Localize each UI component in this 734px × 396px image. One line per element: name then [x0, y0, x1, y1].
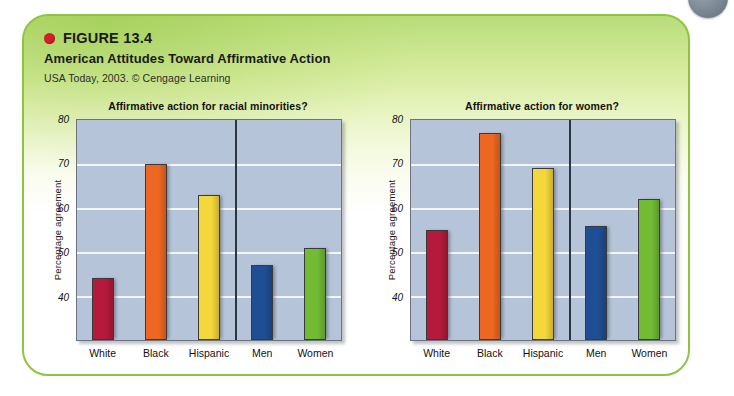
y-tick-label: 60 [392, 202, 403, 213]
bar-men [251, 265, 273, 340]
group-divider [235, 120, 237, 340]
bar-white [92, 278, 114, 340]
x-tick-label: Men [252, 347, 272, 359]
chart-body: Percentage agreement8070605040WhiteBlack… [370, 119, 680, 341]
chart-title: Affirmative action for women? [404, 100, 680, 112]
chart-body: Percentage agreement8070605040WhiteBlack… [36, 119, 346, 341]
y-tick-label: 50 [58, 247, 69, 258]
group-divider [569, 120, 571, 340]
figure-title: American Attitudes Toward Affirmative Ac… [44, 51, 564, 66]
bar-women [638, 199, 660, 340]
bar-black [145, 164, 167, 340]
bar-women [304, 248, 326, 340]
figure-label-row: FIGURE 13.4 [44, 30, 564, 46]
y-tick-label: 70 [58, 158, 69, 169]
plot-area [76, 119, 342, 341]
bars-container [411, 120, 675, 340]
y-tick-label: 60 [58, 202, 69, 213]
bar-hispanic [532, 168, 554, 340]
x-tick-label: Men [586, 347, 606, 359]
x-axis-labels: WhiteBlackHispanicMenWomen [76, 343, 342, 363]
figure-panel: FIGURE 13.4 American Attitudes Toward Af… [22, 14, 690, 376]
bar-hispanic [198, 195, 220, 340]
bar-black [479, 133, 501, 340]
y-tick-label: 80 [392, 114, 403, 125]
x-tick-label: Women [297, 347, 333, 359]
y-tick-label: 80 [58, 114, 69, 125]
chart-title: Affirmative action for racial minorities… [70, 100, 346, 112]
x-tick-label: Hispanic [189, 347, 229, 359]
y-tick-label: 40 [58, 291, 69, 302]
x-axis-labels: WhiteBlackHispanicMenWomen [410, 343, 676, 363]
chart-women: Affirmative action for women?Percentage … [370, 100, 680, 370]
bars-container [77, 120, 341, 340]
x-tick-label: Black [143, 347, 169, 359]
figure-number: FIGURE 13.4 [63, 30, 152, 46]
bar-white [426, 230, 448, 340]
y-tick-label: 40 [392, 291, 403, 302]
x-tick-label: Hispanic [523, 347, 563, 359]
charts-row: Affirmative action for racial minorities… [36, 100, 680, 370]
figure-source: USA Today, 2003. © Cengage Learning [44, 72, 564, 84]
plot-area [410, 119, 676, 341]
x-tick-label: White [89, 347, 116, 359]
x-tick-label: White [423, 347, 450, 359]
red-bullet-icon [44, 33, 55, 44]
corner-circle-decoration [688, 0, 728, 18]
y-tick-label: 50 [392, 247, 403, 258]
y-tick-label: 70 [392, 158, 403, 169]
y-axis-ticks: 8070605040 [384, 119, 406, 341]
x-tick-label: Women [631, 347, 667, 359]
figure-header: FIGURE 13.4 American Attitudes Toward Af… [44, 30, 564, 84]
y-axis-ticks: 8070605040 [50, 119, 72, 341]
chart-racial-minorities: Affirmative action for racial minorities… [36, 100, 346, 370]
x-tick-label: Black [477, 347, 503, 359]
bar-men [585, 226, 607, 340]
